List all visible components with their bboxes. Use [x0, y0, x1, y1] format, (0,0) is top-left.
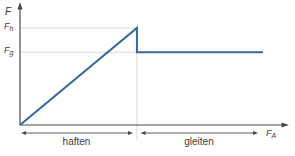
x-axis-label: FA [266, 129, 276, 140]
region-label-haften: haften [20, 136, 133, 148]
x-axis-label-sub: A [272, 132, 277, 139]
chart-canvas [0, 0, 295, 156]
region-label-gleiten: gleiten [140, 136, 258, 148]
friction-chart: F Fh Fg FA haften gleiten [0, 0, 295, 156]
y-tick-label-fg: Fg [4, 46, 13, 57]
y-axis-label: F [5, 7, 11, 17]
y-tick-label-fh: Fh [4, 22, 13, 33]
y-tick-fg-sub: g [10, 49, 14, 56]
y-tick-fh-sub: h [10, 25, 14, 32]
